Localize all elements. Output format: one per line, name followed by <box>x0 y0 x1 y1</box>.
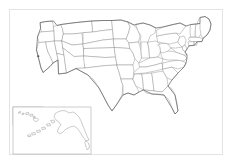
state-texas[interactable] <box>76 65 123 111</box>
inset-group <box>13 107 91 154</box>
state-kansas[interactable] <box>84 48 116 58</box>
state-washington[interactable] <box>41 21 55 32</box>
us-choropleth-map-figure <box>0 0 234 167</box>
state-montana[interactable] <box>61 21 93 34</box>
state-north-carolina[interactable] <box>163 60 186 69</box>
california-bay-marker[interactable] <box>37 55 39 57</box>
state-vermont[interactable] <box>190 24 196 37</box>
state-ohio[interactable] <box>148 41 161 58</box>
state-oregon[interactable] <box>38 31 55 43</box>
state-massachusetts[interactable] <box>189 37 203 42</box>
map-canvas <box>0 0 234 167</box>
